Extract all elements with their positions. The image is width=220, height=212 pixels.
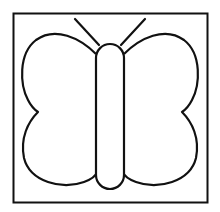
butterfly-svg xyxy=(0,0,220,212)
left-wing xyxy=(22,34,97,185)
butterfly-drawing xyxy=(0,0,220,212)
butterfly-body xyxy=(96,44,124,189)
right-wing xyxy=(123,34,198,185)
